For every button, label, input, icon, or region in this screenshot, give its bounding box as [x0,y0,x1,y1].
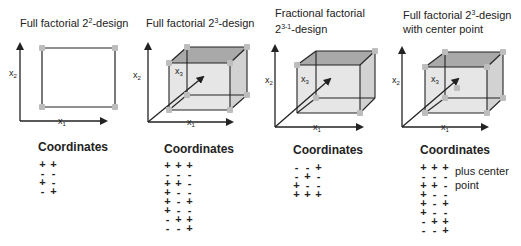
plus-sign: + [313,190,324,199]
design-point-marker [357,110,363,116]
panel-title: Full factorial 22-design [20,14,128,30]
title-exponent: 3-1 [281,23,291,30]
square-diagram: x1x2 [9,44,118,127]
note-line: point [455,178,509,192]
panel-title: Full factorial 23-design [146,14,254,30]
design-point-marker [500,49,506,55]
coordinates-table: +++---++-+--+-++---++--+ [162,161,195,233]
design-point-marker [39,45,45,51]
coordinates-heading: Coordinates [164,142,234,156]
x1-axis-label: x1 [441,122,450,133]
design-point-marker [112,45,118,51]
design-point-marker [227,107,233,113]
design-square [42,48,115,107]
design-point-marker [500,95,506,101]
cube-diagram-fractional: x1x2x3 [265,46,378,133]
design-point-marker [39,104,45,110]
coordinates-heading: Coordinates [293,143,363,157]
design-point-marker [442,95,448,101]
minus-sign: - [173,224,184,233]
plus-sign: + [291,190,302,199]
coordinates-table: ++--+--+ [37,160,59,196]
design-point-marker [244,44,250,50]
title-text: Full factorial 2 [20,17,88,29]
coordinate-row: --+ [162,224,195,233]
minus-sign: - [418,226,429,235]
x2-axis-label: x2 [133,70,142,81]
panel-title: Fractional factorial 23-1-design [275,6,365,36]
coordinates-heading: Coordinates [38,140,108,154]
design-point-marker [294,62,300,68]
title-suffix: -design [291,23,327,35]
design-point-marker [372,48,378,54]
note-line: plus center [455,164,509,178]
title-suffix: -design [218,17,254,29]
coordinates-heading: Coordinates [420,143,490,157]
center-point-note: plus center point [455,164,509,192]
cube-diagram-center-point: x1x2x3 [392,48,506,133]
design-point-marker [112,104,118,110]
design-point-marker [313,95,319,101]
panel-title: Full factorial 23-design with center poi… [403,6,511,36]
design-point-marker [422,110,428,116]
title-text: Full factorial 2 [403,9,471,21]
x1-axis-label: x1 [313,122,322,133]
plus-sign: + [184,224,195,233]
design-point-marker [166,107,172,113]
design-point-marker [166,60,172,66]
design-point-marker [184,44,190,50]
center-point-marker [454,85,460,91]
title-text: Fractional factorial [275,7,365,19]
design-point-marker [484,64,490,70]
design-point-marker [244,92,250,98]
coordinate-row: --+ [418,226,451,235]
minus-sign: - [162,224,173,233]
title-subtitle: with center point [403,23,483,35]
x2-axis-label: x2 [265,75,274,86]
title-suffix: -design [92,17,128,29]
plus-sign: + [440,226,451,235]
minus-sign: - [429,226,440,235]
x2-axis-label: x2 [9,68,18,79]
x2-axis-label: x2 [392,75,401,86]
design-point-marker [227,60,233,66]
plus-sign: + [302,190,313,199]
coordinate-row: +++ [291,190,324,199]
title-suffix: -design [475,9,511,21]
x1-axis-label: x1 [58,116,67,127]
title-text: Full factorial 2 [146,17,214,29]
coordinates-table: --+-+-+--+++ [291,163,324,199]
coordinates-table: +++---++-+--+-++---++--+ [418,163,451,235]
design-point-marker [184,92,190,98]
minus-sign: - [37,187,48,196]
design-point-marker [422,64,428,70]
cube-diagram-full-2-3: x1x2x3 [133,44,250,128]
design-point-marker [484,110,490,116]
plus-sign: + [48,187,59,196]
x1-axis-label: x1 [187,117,196,128]
coordinate-row: -+ [37,187,59,196]
design-point-marker [442,49,448,55]
